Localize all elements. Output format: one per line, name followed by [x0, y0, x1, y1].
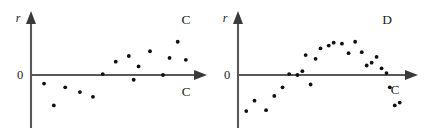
data-point [314, 57, 318, 61]
data-point-group-c [42, 40, 188, 107]
data-point [91, 95, 95, 99]
panel-label-d: D [382, 12, 392, 27]
x-axis-arrow-c [194, 70, 207, 80]
data-point [253, 99, 257, 103]
data-point [353, 40, 357, 44]
panel-label-c: C [181, 12, 190, 27]
data-point [78, 90, 82, 94]
data-point [148, 49, 152, 53]
scatter-panel-d: r 0 D C [214, 0, 429, 136]
data-point [176, 40, 180, 44]
data-point [296, 73, 300, 77]
data-point [272, 94, 276, 98]
data-point [168, 56, 172, 60]
data-point [101, 72, 105, 76]
x-axis-label-c: C [182, 84, 191, 99]
data-point [393, 104, 397, 108]
x-axis-label-d: C [391, 82, 400, 97]
data-point [114, 60, 118, 64]
y-axis-label-d: r [223, 11, 228, 25]
data-point [332, 41, 336, 45]
origin-label-d: 0 [224, 68, 230, 82]
data-point-group-d [244, 40, 401, 113]
scatter-plot-c-svg: r 0 C C [0, 0, 215, 136]
scatter-plot-d-svg: r 0 D C [214, 0, 429, 136]
data-point [161, 73, 165, 77]
data-point [137, 65, 141, 69]
scatter-panel-c: r 0 C C [0, 0, 215, 136]
data-point [360, 50, 364, 54]
data-point [385, 71, 389, 75]
origin-label-c: 0 [17, 68, 23, 82]
y-axis-arrow-d [233, 11, 243, 24]
data-point [281, 85, 285, 89]
data-point [63, 85, 67, 89]
data-point [244, 109, 248, 113]
data-point [52, 104, 56, 108]
data-point [184, 58, 188, 62]
y-axis-arrow-c [26, 11, 36, 24]
data-point [42, 82, 46, 86]
data-point [132, 78, 136, 82]
residual-plots-figure: r 0 C C r 0 D C [0, 0, 429, 136]
data-point [264, 108, 268, 112]
data-point [287, 72, 291, 76]
data-point [380, 66, 384, 70]
data-point [304, 53, 308, 57]
data-point [327, 44, 331, 48]
data-point [398, 101, 402, 105]
x-axis-arrow-d [405, 70, 418, 80]
data-point [319, 47, 323, 51]
data-point [375, 55, 379, 59]
data-point [300, 69, 304, 73]
data-point [347, 51, 351, 55]
y-axis-label-c: r [16, 11, 21, 25]
data-point [365, 64, 369, 68]
data-point [340, 42, 344, 46]
data-point [370, 61, 374, 65]
data-point [388, 85, 392, 89]
data-point [309, 83, 313, 87]
data-point [127, 54, 131, 58]
